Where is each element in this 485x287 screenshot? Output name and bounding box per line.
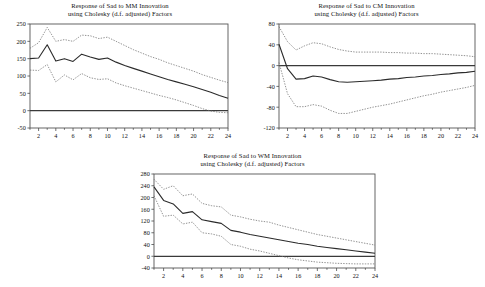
panel-mm: Response of Sad to MM Innovation using C…	[0, 2, 240, 150]
series-line-0	[279, 27, 475, 57]
y-tick-label: 240	[141, 182, 150, 189]
x-tick-label: 22	[353, 273, 359, 280]
x-tick-label: 4	[54, 133, 57, 140]
panel-wm: Response of Sad to WM Innovation using C…	[120, 152, 385, 287]
plot-frame	[30, 24, 228, 128]
x-tick-label: 10	[104, 133, 110, 140]
y-tick-label: 280	[141, 171, 150, 178]
x-tick-label: 4	[303, 133, 306, 140]
x-tick-label: 20	[190, 133, 196, 140]
x-tick-label: 20	[438, 133, 444, 140]
panel-wm-title-line2: using Cholesky (d.f. adjusted) Factors	[120, 160, 385, 168]
x-tick-label: 6	[200, 273, 203, 280]
series-line-1	[154, 187, 375, 253]
panel-cm-title: Response of Sad to CM Innovation using C…	[248, 2, 485, 18]
y-tick-label: 80	[144, 229, 150, 236]
y-tick-label: -40	[267, 83, 275, 90]
x-tick-label: 2	[37, 133, 40, 140]
series-line-1	[30, 45, 228, 98]
x-tick-label: 24	[472, 133, 478, 140]
panel-mm-title: Response of Sad to MM Innovation using C…	[0, 2, 240, 18]
y-tick-label: -40	[142, 265, 150, 272]
panel-cm-plot-svg: -120-80-400408024681012141618202224	[248, 18, 485, 146]
y-tick-label: 0	[147, 253, 150, 260]
x-tick-label: 22	[455, 133, 461, 140]
y-tick-label: 250	[17, 21, 26, 28]
x-tick-label: 8	[220, 273, 223, 280]
y-tick-label: -120	[263, 125, 274, 132]
x-tick-label: 24	[225, 133, 231, 140]
y-tick-label: 200	[17, 38, 26, 45]
plot-frame	[154, 174, 375, 268]
panel-cm-title-line1: Response of Sad to CM Innovation	[248, 2, 485, 10]
x-tick-label: 16	[295, 273, 301, 280]
series-line-0	[30, 28, 228, 83]
x-tick-label: 16	[404, 133, 410, 140]
impulse-response-figure: Response of Sad to MM Innovation using C…	[0, 0, 485, 287]
panel-mm-title-line1: Response of Sad to MM Innovation	[0, 2, 240, 10]
x-tick-label: 6	[71, 133, 74, 140]
y-tick-label: 120	[141, 218, 150, 225]
y-tick-label: -50	[18, 125, 26, 132]
panel-cm-plot: -120-80-400408024681012141618202224	[248, 18, 485, 146]
plot-frame	[279, 24, 475, 128]
panel-mm-plot: -5005010015020025024681012141618202224	[0, 18, 240, 146]
y-tick-label: 150	[17, 55, 26, 62]
panel-wm-title: Response of Sad to WM Innovation using C…	[120, 152, 385, 168]
panel-wm-title-line1: Response of Sad to WM Innovation	[120, 152, 385, 160]
x-tick-label: 18	[173, 133, 179, 140]
y-tick-label: 40	[269, 42, 275, 49]
x-tick-label: 10	[237, 273, 243, 280]
x-tick-label: 14	[276, 273, 282, 280]
y-tick-label: 0	[272, 62, 275, 69]
x-tick-label: 22	[208, 133, 214, 140]
x-tick-label: 14	[387, 133, 393, 140]
y-tick-label: 40	[144, 241, 150, 248]
y-tick-label: 100	[17, 73, 26, 80]
y-tick-label: 0	[23, 107, 26, 114]
x-tick-label: 20	[333, 273, 339, 280]
x-tick-label: 8	[337, 133, 340, 140]
x-tick-label: 4	[181, 273, 184, 280]
x-tick-label: 2	[286, 133, 289, 140]
panel-wm-plot: -400408012016020024028024681012141618202…	[120, 168, 385, 286]
x-tick-label: 16	[156, 133, 162, 140]
series-line-2	[154, 196, 375, 264]
x-tick-label: 14	[139, 133, 145, 140]
y-tick-label: 80	[269, 21, 275, 28]
x-tick-label: 6	[320, 133, 323, 140]
y-tick-label: 50	[20, 90, 26, 97]
x-tick-label: 12	[257, 273, 263, 280]
y-tick-label: -80	[267, 104, 275, 111]
panel-wm-plot-svg: -400408012016020024028024681012141618202…	[120, 168, 385, 286]
x-tick-label: 18	[421, 133, 427, 140]
panel-cm: Response of Sad to CM Innovation using C…	[248, 2, 485, 150]
x-tick-label: 8	[89, 133, 92, 140]
panel-cm-title-line2: using Cholesky (d.f. adjusted) Factors	[248, 10, 485, 18]
x-tick-label: 12	[370, 133, 376, 140]
y-tick-label: 160	[141, 206, 150, 213]
series-line-1	[279, 45, 475, 83]
series-line-2	[279, 63, 475, 114]
x-tick-label: 18	[314, 273, 320, 280]
x-tick-label: 24	[372, 273, 378, 280]
x-tick-label: 10	[353, 133, 359, 140]
y-tick-label: 200	[141, 194, 150, 201]
x-tick-label: 2	[162, 273, 165, 280]
panel-mm-title-line2: using Cholesky (d.f. adjusted) Factors	[0, 10, 240, 18]
panel-mm-plot-svg: -5005010015020025024681012141618202224	[0, 18, 240, 146]
x-tick-label: 12	[122, 133, 128, 140]
